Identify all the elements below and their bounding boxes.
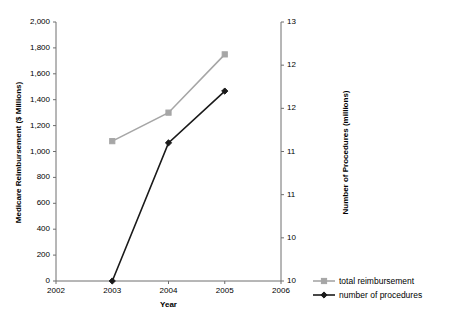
y-axis-left-tick-label: 200 (37, 251, 50, 259)
y-axis-left-title: Medicare Reimbursement ($ Millions) (14, 73, 23, 233)
data-point-marker (110, 139, 115, 144)
y-axis-right-tick-label: 10 (287, 234, 296, 242)
legend-item[interactable]: number of procedures (312, 288, 422, 302)
x-axis-title: Year (129, 300, 209, 309)
legend-item-label: number of procedures (339, 290, 422, 300)
series-line-0 (112, 54, 225, 141)
plot-area (0, 0, 449, 318)
y-axis-right-tick-label: 13 (287, 18, 296, 26)
y-axis-left-tick-label: 400 (37, 225, 50, 233)
y-axis-right-tick-label: 12 (287, 104, 296, 112)
legend-marker-icon (312, 275, 336, 287)
y-axis-left-tick-label: 1,400 (30, 96, 50, 104)
x-axis-tick-label: 2002 (36, 287, 76, 295)
y-axis-right-title: Number of Procedures (millions) (341, 73, 350, 233)
y-axis-left-tick-label: 600 (37, 199, 50, 207)
x-axis-tick-label: 2006 (261, 287, 301, 295)
legend-item-label: total reimbursement (339, 276, 414, 286)
y-axis-right-tick-label: 11 (287, 148, 295, 156)
y-axis-left-tick-label: 1,600 (30, 70, 50, 78)
y-axis-left-tick-label: 1,800 (30, 44, 50, 52)
chart-legend: total reimbursementnumber of procedures (312, 274, 422, 302)
legend-item[interactable]: total reimbursement (312, 274, 422, 288)
x-axis-tick-label: 2004 (149, 287, 189, 295)
x-axis-tick-label: 2003 (92, 287, 132, 295)
y-axis-left-tick-label: 1,200 (30, 122, 50, 130)
chart-container: Medicare Reimbursement ($ Millions) Numb… (0, 0, 449, 318)
y-axis-left-tick-label: 800 (37, 173, 50, 181)
data-point-marker (109, 278, 115, 284)
legend-marker-icon (312, 289, 336, 301)
y-axis-left-tick-label: 2,000 (30, 18, 50, 26)
y-axis-right-tick-label: 11 (287, 191, 295, 199)
y-axis-right-tick-label: 12 (287, 61, 296, 69)
y-axis-left-tick-label: 1,000 (30, 148, 50, 156)
data-point-marker (166, 110, 171, 115)
y-axis-left-tick-label: 0 (46, 277, 50, 285)
data-point-marker (222, 52, 227, 57)
series-line-1 (112, 91, 225, 281)
x-axis-tick-label: 2005 (205, 287, 245, 295)
y-axis-right-tick-label: 10 (287, 277, 296, 285)
